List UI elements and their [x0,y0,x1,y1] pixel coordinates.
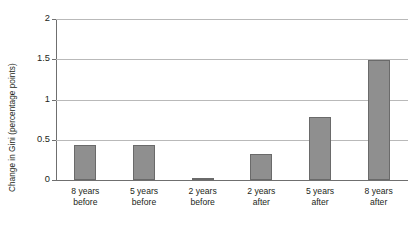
x-axis-category-label: 5 yearsbefore [112,186,176,207]
y-axis-tick-labels: 00.511.52 [0,0,50,232]
bar [133,145,155,180]
y-axis-tick-label: 0 [6,175,50,184]
category-label-line1: 2 years [171,186,235,197]
bar [74,145,96,180]
bar-chart: Change in Gini (percentage points) 00.51… [0,0,420,232]
gridline [56,19,408,20]
y-axis-tick-label: 2 [6,14,50,23]
category-label-line2: before [171,197,235,208]
category-label-line2: after [347,197,411,208]
x-axis-category-label: 8 yearsafter [347,186,411,207]
category-label-line2: before [112,197,176,208]
y-axis-tick-label: 0.5 [6,135,50,144]
x-axis-category-label: 5 yearsafter [288,186,352,207]
plot-area [56,19,408,180]
category-label-line2: after [229,197,293,208]
category-label-line2: after [288,197,352,208]
category-label-line2: before [53,197,117,208]
bar [368,60,390,180]
bar [309,117,331,180]
bar [250,154,272,180]
category-label-line1: 5 years [288,186,352,197]
y-axis-tick-label: 1 [6,95,50,104]
x-axis-category-label: 8 yearsbefore [53,186,117,207]
bar [192,178,214,180]
category-label-line1: 8 years [347,186,411,197]
category-label-line1: 2 years [229,186,293,197]
gridline [56,59,408,60]
category-label-line1: 5 years [112,186,176,197]
x-axis-category-label: 2 yearsbefore [171,186,235,207]
category-label-line1: 8 years [53,186,117,197]
x-axis-category-label: 2 yearsafter [229,186,293,207]
gridline [56,180,408,181]
gridline [56,140,408,141]
y-axis-tick-label: 1.5 [6,54,50,63]
gridline [56,100,408,101]
